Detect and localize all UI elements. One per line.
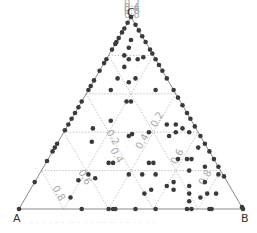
data-point: [79, 99, 84, 104]
data-point: [188, 117, 193, 122]
data-point: [73, 111, 78, 116]
data-point: [187, 199, 192, 204]
data-point: [203, 180, 208, 185]
data-point: [88, 84, 93, 89]
data-point: [125, 21, 130, 26]
data-point: [106, 207, 111, 212]
data-point: [76, 105, 81, 110]
data-point: [174, 130, 179, 135]
tick-label-a: 0.6: [76, 168, 93, 187]
ternary-plot: 0.20.40.60.80.40.60.80.20.20.40.60.8 A B…: [0, 0, 257, 233]
tick-label-a: 0.8: [50, 184, 67, 203]
data-point: [97, 69, 102, 74]
data-point: [193, 124, 198, 129]
data-point: [86, 88, 91, 93]
data-point: [66, 122, 71, 127]
data-point: [86, 172, 91, 177]
data-point: [241, 207, 246, 212]
data-point: [214, 191, 219, 196]
data-point: [147, 161, 152, 166]
vertex-label-a: A: [13, 212, 21, 225]
data-point: [165, 122, 170, 127]
vertex-label-c: C: [127, 6, 135, 19]
data-point: [167, 134, 172, 139]
data-point: [151, 161, 156, 166]
data-point: [127, 45, 132, 50]
data-point: [189, 207, 194, 212]
data-point: [171, 180, 176, 185]
data-point: [137, 28, 142, 33]
data-point: [110, 47, 115, 52]
data-point: [141, 55, 146, 60]
data-point: [180, 103, 185, 108]
data-point: [205, 191, 210, 196]
data-point: [122, 65, 127, 70]
data-point: [129, 38, 134, 43]
data-point: [122, 26, 127, 31]
data-point: [91, 126, 96, 131]
data-point: [174, 122, 179, 127]
tick-label-b: 0.6: [168, 147, 185, 166]
data-point: [116, 36, 121, 41]
data-point: [133, 22, 138, 27]
data-point: [150, 51, 155, 56]
data-point: [153, 88, 158, 93]
data-point: [176, 95, 181, 100]
data-point: [106, 161, 111, 166]
vertex-label-b: B: [241, 212, 249, 225]
data-point: [196, 145, 201, 150]
data-point: [147, 130, 152, 135]
tick-label-a: 0.4: [108, 146, 125, 165]
data-point: [216, 165, 221, 170]
data-point: [198, 134, 203, 139]
data-point: [111, 161, 116, 166]
data-point: [32, 180, 37, 185]
data-point: [90, 140, 95, 145]
data-point: [129, 99, 134, 104]
data-point: [180, 126, 185, 131]
data-point: [135, 57, 140, 62]
data-point: [115, 76, 120, 81]
data-point: [157, 63, 162, 68]
data-point: [127, 172, 132, 177]
data-point: [160, 69, 165, 74]
data-point: [216, 172, 221, 177]
data-point: [124, 99, 129, 104]
data-point: [165, 184, 170, 189]
data-point: [63, 128, 68, 133]
data-point: [207, 149, 212, 154]
data-point: [79, 207, 84, 212]
data-point: [127, 80, 132, 85]
data-point: [45, 159, 50, 164]
data-point: [203, 165, 208, 170]
data-point: [109, 88, 114, 93]
data-point: [148, 47, 153, 52]
data-point: [149, 188, 154, 193]
data-point: [171, 188, 176, 193]
data-point: [50, 149, 55, 154]
data-point: [203, 141, 208, 146]
data-point: [185, 111, 190, 116]
data-point: [122, 53, 127, 58]
data-point: [127, 57, 132, 62]
data-point: [68, 195, 73, 200]
data-point: [222, 174, 227, 179]
data-point: [92, 78, 97, 83]
data-point: [140, 34, 145, 39]
data-point: [133, 207, 138, 212]
data-point: [109, 118, 114, 123]
data-point: [153, 172, 158, 177]
data-point: [113, 207, 118, 212]
data-point: [189, 157, 194, 162]
data-point: [187, 168, 192, 173]
data-point: [153, 207, 158, 212]
data-point: [17, 207, 22, 212]
data-point: [133, 76, 138, 81]
data-point: [113, 42, 118, 47]
data-point: [142, 191, 147, 196]
data-point: [76, 178, 81, 183]
data-point: [120, 30, 125, 35]
data-point: [187, 191, 192, 196]
data-point: [55, 141, 60, 146]
data-point: [165, 76, 170, 81]
